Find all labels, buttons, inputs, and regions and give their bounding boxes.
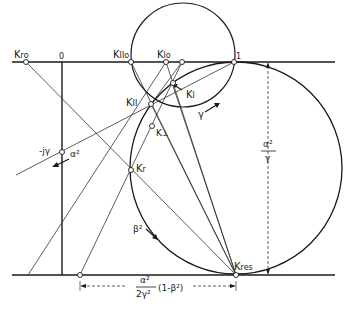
right-dim-denominator: γ [265, 153, 271, 163]
arrowhead-right [230, 284, 236, 288]
point-bottom [78, 273, 83, 278]
construction-lines [16, 62, 236, 275]
right-dim-numerator: α² [263, 139, 273, 149]
point-k-ii [149, 102, 154, 107]
label-k-l: Kl [186, 89, 195, 100]
arrowhead-left [80, 284, 86, 288]
label-beta-sq: β² [133, 224, 143, 234]
point-k-iio [129, 60, 134, 65]
point-neg-j-gamma [60, 150, 65, 155]
label-neg-j-gamma: -jγ [39, 146, 51, 156]
point-k-lo [164, 60, 169, 65]
point-k-l [171, 81, 176, 86]
point-k-ro [24, 60, 29, 65]
label-k-lo: Klo [157, 49, 171, 60]
big-circle [130, 62, 342, 274]
label-k-perp: K⊥ [156, 128, 169, 138]
label-k-iio: KIIo [113, 49, 129, 60]
arrowhead-down [266, 269, 270, 275]
point-k-perp [150, 124, 155, 129]
bottom-dim-denominator: 2γ² [136, 289, 151, 299]
label-k-r: Kr [136, 163, 147, 174]
label-k-ro: Kro [14, 49, 29, 60]
point-k-r [129, 168, 134, 173]
label-gamma: γ [198, 109, 204, 120]
arrowhead-up [266, 62, 270, 68]
label-k-res: Kres [234, 261, 253, 272]
point-aux [180, 60, 185, 65]
label-one: 1 [236, 52, 241, 61]
bottom-dim-tail: (1-β²) [158, 283, 183, 293]
label-origin: 0 [59, 52, 64, 61]
label-k-ii: KII [126, 97, 137, 108]
point-k-res [234, 273, 239, 278]
bottom-dim-numerator: α² [140, 275, 150, 285]
label-alpha-sq: α² [70, 149, 80, 159]
circle-diagram: Kro 0 KIIo Klo 1 KII Kl K⊥ -jγ α² γ Kr β… [0, 0, 347, 309]
